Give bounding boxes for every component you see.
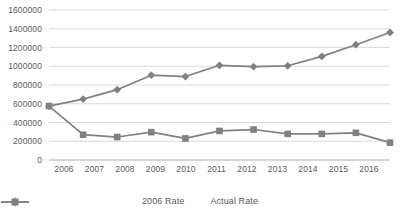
chart-legend: 2006 Rate Actual Rate <box>0 196 400 206</box>
legend-label: 2006 Rate <box>142 196 184 206</box>
legend-item-2006-rate: 2006 Rate <box>142 196 184 206</box>
legend-item-actual-rate: Actual Rate <box>210 196 258 206</box>
square-marker-icon <box>0 196 30 208</box>
legend-label: Actual Rate <box>210 196 258 206</box>
plot-area <box>0 0 400 219</box>
line-chart: 1600000 1400000 1200000 1000000 800000 6… <box>0 0 400 219</box>
